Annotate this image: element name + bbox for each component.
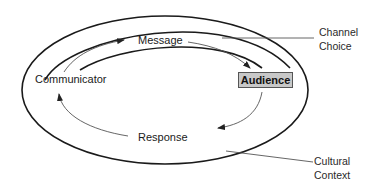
response-arrow-right (218, 92, 262, 128)
message-arrow-continuation (188, 42, 250, 68)
cultural-context-label: Cultural Context (314, 154, 350, 182)
cultural-context-line1: Cultural (314, 154, 350, 168)
channel-choice-line1: Channel (319, 25, 358, 39)
channel-choice-line2: Choice (319, 39, 358, 53)
channel-band-inner-arc (80, 47, 262, 70)
communicator-label: Communicator (35, 73, 107, 86)
message-label: Message (138, 34, 183, 47)
response-arrow-left (59, 94, 128, 136)
audience-box: Audience (238, 72, 293, 88)
cultural-context-line2: Context (314, 168, 350, 182)
cultural-context-leader (226, 151, 313, 162)
communication-model-diagram: Communicator Message Audience Response C… (0, 0, 378, 186)
response-label: Response (138, 131, 188, 144)
channel-choice-label: Channel Choice (319, 25, 358, 53)
